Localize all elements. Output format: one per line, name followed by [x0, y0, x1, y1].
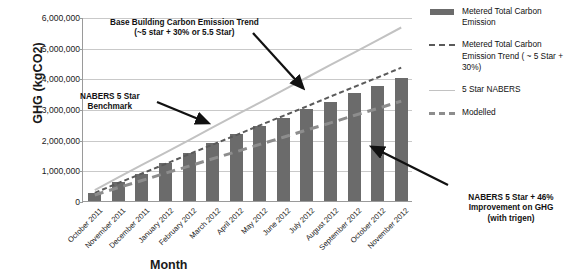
- annotation-trigen: NABERS 5 Star + 46% Improvement on GHG (…: [452, 193, 570, 224]
- y-axis-tick-label: 6,000,000: [42, 13, 80, 23]
- annotation-trigen-line1: NABERS 5 Star + 46%: [452, 193, 570, 203]
- chart-legend: Metered Total Carbon Emission Metered To…: [428, 6, 574, 130]
- annotation-trigen-line2: Improvement on GHG: [452, 203, 570, 213]
- legend-label: 5 Star NABERS: [462, 84, 521, 95]
- annotation-nabers-benchmark-line2: Benchmark: [80, 102, 140, 112]
- y-axis-tick-label: 3,000,000: [42, 105, 80, 115]
- x-axis-title: Month: [150, 258, 187, 272]
- legend-item-metered-total-carbon-emission-trend[interactable]: Metered Total Carbon Emission Trend ( ~ …: [428, 39, 574, 73]
- annotation-base-building-line2: (~5 star + 30% or 5.5 Star): [110, 28, 259, 38]
- legend-item-metered-total-carbon-emission[interactable]: Metered Total Carbon Emission: [428, 6, 574, 28]
- y-axis-tick-label: 1,000,000: [42, 166, 80, 176]
- ghg-emissions-chart: GHG (kgCO2) 6,000,0005,000,0004,000,0003…: [0, 0, 576, 280]
- legend-label: Metered Total Carbon Emission: [462, 6, 574, 28]
- dashed-gray-line-swatch-icon: [428, 107, 456, 119]
- y-axis-tick-label: 4,000,000: [42, 74, 80, 84]
- solid-light-line-swatch-icon: [428, 84, 456, 96]
- annotation-nabers-benchmark-line1: NABERS 5 Star: [80, 92, 140, 102]
- legend-label: Modelled: [462, 107, 496, 118]
- x-axis-tick-labels: October 2011November 2011December 2011Ja…: [82, 202, 412, 272]
- annotation-nabers-benchmark: NABERS 5 Star Benchmark: [80, 92, 140, 113]
- line-series: [95, 101, 401, 195]
- annotation-trigen-line3: (with trigen): [452, 214, 570, 224]
- annotation-base-building: Base Building Carbon Emission Trend (~5 …: [110, 18, 259, 39]
- legend-item-modelled[interactable]: Modelled: [428, 107, 574, 119]
- line-series: [95, 68, 401, 193]
- legend-item-5-star-nabers[interactable]: 5 Star NABERS: [428, 84, 574, 96]
- bar-swatch-icon: [428, 6, 456, 18]
- y-axis-tick-label: 5,000,000: [42, 44, 80, 54]
- y-axis-tick-label: 2,000,000: [42, 136, 80, 146]
- legend-label: Metered Total Carbon Emission Trend ( ~ …: [462, 39, 574, 73]
- annotation-base-building-line1: Base Building Carbon Emission Trend: [110, 18, 259, 28]
- dashed-dark-line-swatch-icon: [428, 39, 456, 51]
- line-series: [95, 28, 401, 191]
